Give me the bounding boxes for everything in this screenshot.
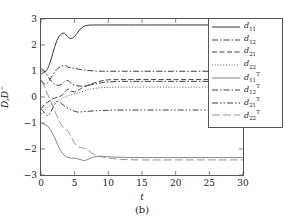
- series-line-d11_T: [41, 123, 243, 160]
- legend-key-d22_T: [211, 110, 241, 120]
- legend-key-d11: [211, 22, 241, 32]
- x-tick-label: 20: [170, 179, 181, 188]
- legend-label-d21_T: d21T: [241, 97, 260, 109]
- legend-item-d22_T[interactable]: d22T: [211, 109, 280, 122]
- legend-item-d12_T[interactable]: d12T: [211, 84, 280, 97]
- x-tick-label: 30: [237, 179, 248, 188]
- legend-key-d21_T: [211, 98, 241, 108]
- legend-item-d22[interactable]: d22: [211, 59, 280, 72]
- legend-label-d21: d21: [241, 47, 256, 57]
- legend-key-d12_T: [211, 85, 241, 95]
- legend-label-d11_T: d11T: [241, 72, 260, 84]
- y-tick-label: −2: [24, 145, 37, 154]
- legend-key-d21: [211, 47, 241, 57]
- legend-item-d21_T[interactable]: d21T: [211, 97, 280, 110]
- y-tick-label: 1: [31, 67, 37, 76]
- y-tick-label: −1: [24, 119, 37, 128]
- x-tick-label: 10: [103, 179, 114, 188]
- x-tick-label: 0: [38, 179, 44, 188]
- x-tick-label: 25: [204, 179, 215, 188]
- legend-item-d11_T[interactable]: d11T: [211, 71, 280, 84]
- legend-label-d12: d12: [241, 35, 256, 45]
- legend-label-d22: d22: [241, 60, 256, 70]
- y-axis-label-sup: ~: [0, 86, 5, 91]
- y-tick-label: 0: [31, 93, 37, 102]
- y-axis-label-text: D,D: [0, 91, 10, 108]
- x-tick-label: 5: [72, 179, 78, 188]
- y-tick-label: −3: [24, 171, 37, 180]
- x-axis-label: t: [140, 192, 144, 202]
- x-tick-label: 15: [136, 179, 147, 188]
- y-axis-label: D,D~: [0, 86, 10, 108]
- legend-label-d12_T: d12T: [241, 84, 260, 96]
- legend-label-d11: d11: [241, 22, 256, 32]
- legend-key-d12: [211, 35, 241, 45]
- y-tick-label: 3: [31, 15, 37, 24]
- figure-caption: (b): [135, 204, 149, 215]
- legend-key-d22: [211, 60, 241, 70]
- legend-item-d12[interactable]: d12: [211, 34, 280, 47]
- legend: d11d12d21d22d11Td12Td21Td22T: [208, 18, 283, 128]
- legend-label-d22_T: d22T: [241, 110, 260, 122]
- legend-item-d11[interactable]: d11: [211, 21, 280, 34]
- figure-panel-b: D,D~ 3210−1−2−3051015202530 t (b) d11d12…: [0, 0, 285, 224]
- legend-key-d11_T: [211, 73, 241, 83]
- legend-item-d21[interactable]: d21: [211, 46, 280, 59]
- y-tick-label: 2: [31, 41, 37, 50]
